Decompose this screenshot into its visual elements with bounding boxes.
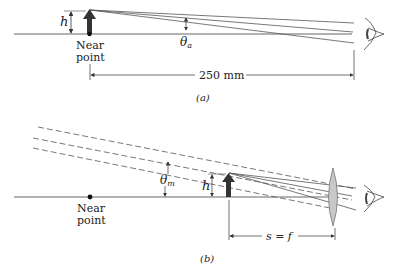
eye-icon-b xyxy=(364,185,384,212)
distance-label-a: 250 mm xyxy=(199,69,245,82)
near-point-label-b-2: point xyxy=(77,214,106,227)
eye-icon xyxy=(364,18,384,50)
theta-a-label: θa xyxy=(180,35,192,50)
near-point-dot-b xyxy=(88,195,93,200)
caption-a: (a) xyxy=(196,92,210,103)
object-arrow-a xyxy=(83,9,96,36)
h-label-a: h xyxy=(60,14,68,29)
panel-b: θm Near point h s = f (b) xyxy=(14,127,384,264)
caption-b: (b) xyxy=(200,253,214,264)
panel-a: h θa Near point 250 mm (a) xyxy=(14,9,384,103)
magnifier-lens xyxy=(329,168,338,226)
near-point-label-a-2: point xyxy=(76,51,105,64)
h-label-b: h xyxy=(202,178,210,193)
distance-label-b: s = f xyxy=(266,230,294,243)
magnifier-diagram: h θa Near point 250 mm (a) xyxy=(0,0,398,268)
